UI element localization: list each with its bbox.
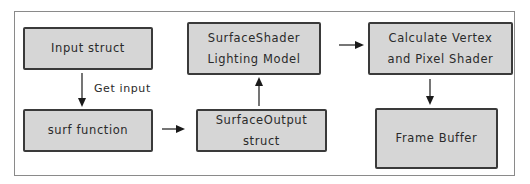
- arrow-right-icon: [339, 41, 364, 49]
- arrows-layer: [0, 0, 530, 184]
- arrow-down-icon: [78, 73, 86, 107]
- arrow-up-icon: [255, 77, 263, 106]
- arrow-right-icon: [162, 125, 185, 133]
- arrow-down-icon: [426, 79, 434, 105]
